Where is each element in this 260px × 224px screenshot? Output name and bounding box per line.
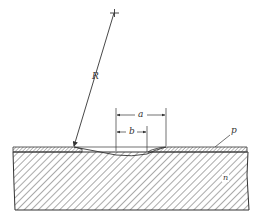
label-dim-b: b (129, 127, 135, 136)
substrate-n (13, 152, 249, 210)
diagram-canvas (0, 0, 260, 224)
label-dim-a: a (138, 110, 143, 119)
label-substrate-n: n (222, 174, 229, 182)
label-radius: R (92, 72, 99, 81)
leader-p (215, 135, 230, 147)
label-layer-p: p (231, 126, 237, 135)
center-cross-icon (110, 9, 119, 17)
